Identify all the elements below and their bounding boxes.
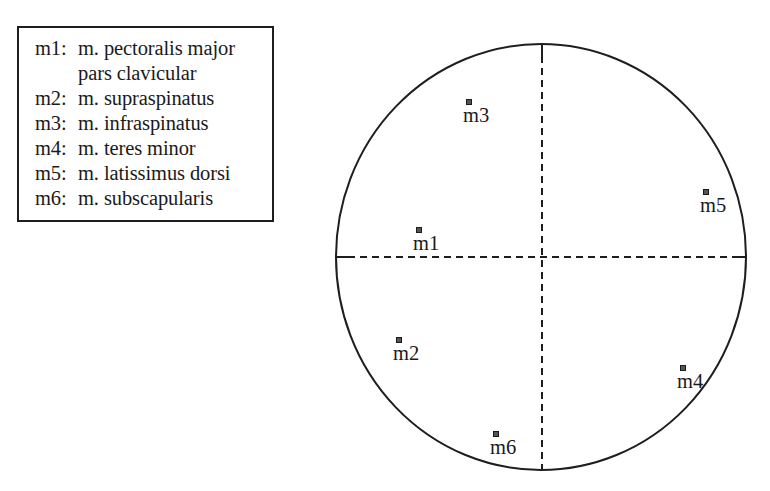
data-point-m2: m2 <box>393 338 419 365</box>
data-point-m3: m3 <box>463 100 489 127</box>
data-point-m5: m5 <box>700 190 726 217</box>
data-point-m1: m1 <box>413 228 439 255</box>
circular-plot: m1m2m3m4m5m6 <box>0 0 770 491</box>
point-label: m1 <box>413 232 439 254</box>
point-label: m6 <box>490 436 516 458</box>
data-point-m6: m6 <box>490 432 516 459</box>
data-points: m1m2m3m4m5m6 <box>393 100 726 459</box>
data-point-m4: m4 <box>677 366 703 393</box>
point-label: m3 <box>463 104 489 126</box>
point-label: m4 <box>677 370 703 392</box>
point-label: m2 <box>393 342 419 364</box>
point-label: m5 <box>700 194 726 216</box>
